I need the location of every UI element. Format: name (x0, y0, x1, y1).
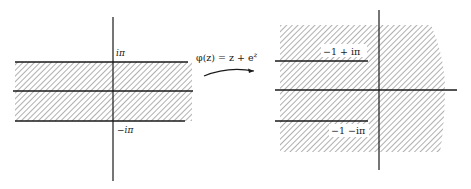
formula-exponent: z (253, 51, 258, 59)
left-z-plane: iπ −iπ (13, 17, 193, 181)
arrow-head-icon (248, 69, 254, 74)
formula-main: φ(z) = z + e (196, 52, 254, 63)
mapping-arrow: φ(z) = z + ez (196, 51, 258, 76)
label-minus-1-minus-i-pi: −1 −iπ (331, 125, 365, 136)
mapping-formula: φ(z) = z + ez (196, 51, 258, 63)
conformal-map-figure: iπ −iπ φ(z) = z + ez −1 + iπ −1 −iπ (0, 0, 471, 189)
label-i-pi: iπ (116, 48, 126, 58)
right-w-plane: −1 + iπ −1 −iπ (275, 10, 457, 170)
label-minus-1-plus-i-pi: −1 + iπ (323, 46, 360, 57)
label-minus-i-pi: −iπ (117, 125, 134, 135)
arrow-curve (204, 69, 254, 76)
